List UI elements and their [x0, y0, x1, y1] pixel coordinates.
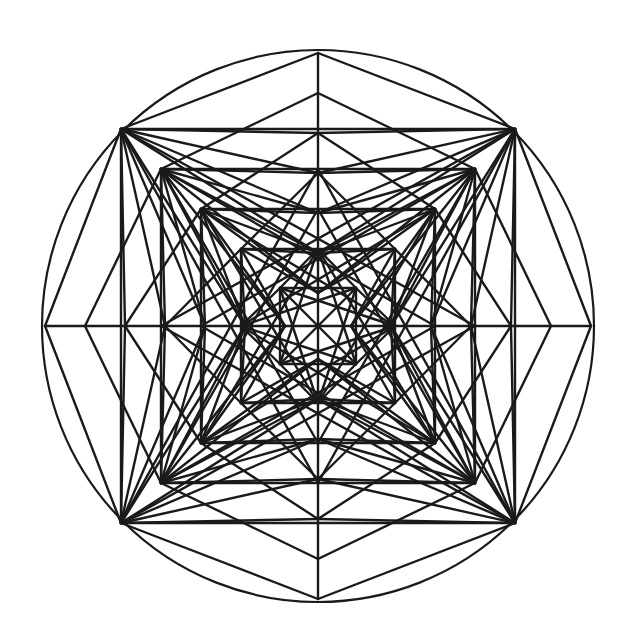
fan-line — [431, 169, 475, 326]
star-line — [45, 326, 121, 523]
star-construction-diagram — [0, 0, 631, 640]
star-line — [318, 523, 515, 599]
star-line — [121, 53, 318, 129]
fan-line — [161, 169, 318, 213]
diagram-canvas — [0, 0, 631, 640]
fan-line — [161, 326, 205, 483]
star-line — [318, 53, 515, 129]
fan-line — [161, 439, 318, 483]
star-line — [45, 129, 121, 326]
axis-lines-group — [45, 53, 591, 599]
fan-line — [161, 169, 205, 326]
fan-line — [431, 326, 475, 483]
star-line — [121, 523, 318, 599]
fan-line — [318, 439, 475, 483]
star-line — [515, 129, 591, 326]
star-line — [515, 326, 591, 523]
fan-line — [318, 169, 475, 213]
